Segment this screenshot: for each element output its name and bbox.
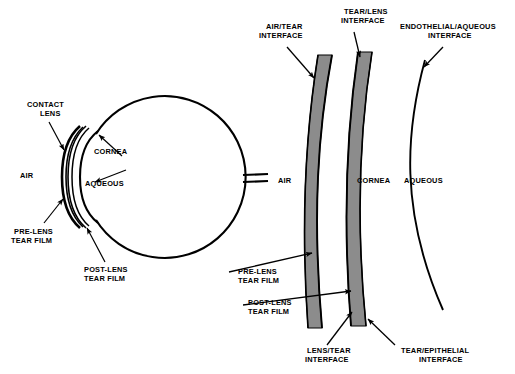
right-contact-lens-label: CONTACT LENS: [335, 158, 344, 224]
diagram-svg: CONTACT LENS CORNEA AQUEOUS AIR PRE-LENS…: [0, 0, 515, 374]
cornea-arc: [80, 131, 98, 223]
left-pre-lens-tear-film-line1: PRE-LENS: [14, 227, 53, 236]
endothelial-aqueous-interface-arc: [410, 60, 443, 310]
left-contact-lens-label-line1: CONTACT: [27, 100, 64, 109]
air-tear-interface-line1: AIR/TEAR: [266, 22, 303, 31]
left-cornea-label: CORNEA: [94, 147, 128, 156]
endothelial-aqueous-interface-line1: ENDOTHELIAL/AQUEOUS: [400, 22, 496, 31]
right-cornea-label: CORNEA: [357, 176, 391, 185]
left-aqueous-label: AQUEOUS: [85, 179, 124, 188]
right-pre-lens-tear-film-line1: PRE-LENS: [238, 267, 277, 276]
tear-epithelial-interface-line1: TEAR/EPITHELIAL: [401, 346, 470, 355]
tear-lens-interface-line2: INTERFACE: [341, 16, 385, 25]
pre-lens-tear-film-arc: [62, 126, 80, 228]
left-post-lens-tear-film-line1: POST-LENS: [84, 265, 128, 274]
tear-lens-interface-line1: TEAR/LENS: [344, 7, 388, 16]
left-eye-group: CONTACT LENS CORNEA AQUEOUS AIR PRE-LENS…: [11, 96, 246, 283]
left-post-lens-tear-film-line2: TEAR FILM: [84, 274, 125, 283]
contact-lens-leader: [49, 122, 64, 150]
lens-tear-interface-leader: [327, 312, 352, 345]
contact-lens-arc-outer: [68, 126, 86, 228]
lens-tear-interface-line2: INTERFACE: [305, 355, 349, 364]
air-tear-interface-leader: [287, 47, 314, 78]
right-aqueous-label: AQUEOUS: [404, 176, 443, 185]
right-air-label: AIR: [278, 176, 292, 185]
endothelial-aqueous-interface-line2: INTERFACE: [428, 31, 472, 40]
right-detail-group: CONTACT LENS AIR CORNEA AQUEOUS AIR/TEAR…: [229, 7, 496, 364]
left-contact-lens-label-line2: LENS: [40, 109, 61, 118]
right-post-lens-tear-film-line2: TEAR FILM: [248, 307, 289, 316]
equals-symbol: [243, 174, 268, 182]
eyeball-globe: [96, 96, 246, 258]
endothelial-aqueous-interface-leader: [424, 47, 443, 67]
left-pre-lens-tear-film-line2: TEAR FILM: [11, 236, 52, 245]
pre-lens-tear-film-leader: [44, 199, 63, 223]
equals-bar-top: [243, 174, 268, 175]
left-air-label: AIR: [20, 171, 34, 180]
lens-tear-interface-line1: LENS/TEAR: [307, 346, 351, 355]
tear-epithelial-interface-leader: [368, 319, 395, 345]
tear-epithelial-interface-line2: INTERFACE: [419, 355, 463, 364]
right-pre-lens-tear-film-line2: TEAR FILM: [238, 276, 279, 285]
post-lens-tear-film-leader: [87, 228, 105, 262]
right-post-lens-tear-film-line1: POST-LENS: [248, 298, 292, 307]
diagram-canvas: CONTACT LENS CORNEA AQUEOUS AIR PRE-LENS…: [0, 0, 515, 374]
post-lens-tear-film-band: [346, 52, 372, 326]
equals-bar-bottom: [243, 181, 268, 182]
air-tear-interface-line2: INTERFACE: [259, 31, 303, 40]
